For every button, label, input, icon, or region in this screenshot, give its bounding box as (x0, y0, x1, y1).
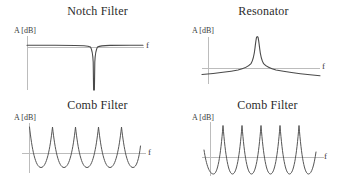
panel-comb-filter-left: Comb Filter A [dB] f (0, 94, 171, 187)
filter-response-figure: Notch Filter A [dB] f Resonator A [dB] f… (0, 0, 343, 187)
curve-comb-filter-right (204, 126, 316, 175)
panel-notch-filter: Notch Filter A [dB] f (0, 0, 171, 93)
curve-comb-filter-left (30, 127, 141, 168)
plot-notch-filter (0, 0, 171, 93)
plot-comb-filter-right (172, 94, 343, 187)
curve-notch-filter (27, 45, 143, 90)
plot-comb-filter-left (0, 94, 171, 187)
plot-resonator (172, 0, 343, 93)
curve-resonator (202, 37, 320, 76)
panel-comb-filter-right: Comb Filter A [dB] f (172, 94, 343, 187)
panel-resonator: Resonator A [dB] f (172, 0, 343, 93)
